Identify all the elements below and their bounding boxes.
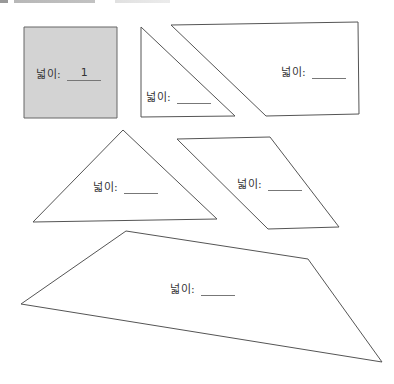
area-label-text: 넓이: [93,178,118,194]
area-label-right-trapezoid: 넓이: [281,63,346,79]
area-label-text: 넓이: [146,88,171,104]
area-label-parallelogram: 넓이: [237,175,302,191]
area-label-text: 넓이: [281,63,306,79]
area-answer-field[interactable]: 1 [67,67,101,81]
area-label-text: 넓이: [237,175,262,191]
area-label-text: 넓이: [170,280,195,296]
area-answer-field[interactable] [268,177,302,191]
area-answer-field[interactable] [312,65,346,79]
area-label-triangle: 넓이: [93,178,158,194]
area-label-text: 넓이: [36,65,61,81]
area-label-right-triangle: 넓이: [146,88,211,104]
area-label-square: 넓이: 1 [36,65,101,81]
shapes-canvas [0,0,394,384]
shape-quadrilateral [21,231,382,362]
area-answer-field[interactable] [124,180,158,194]
area-answer-field[interactable] [201,282,235,296]
area-answer-field[interactable] [177,90,211,104]
area-label-quadrilateral: 넓이: [170,280,235,296]
